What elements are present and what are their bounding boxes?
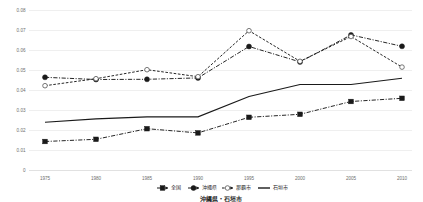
legend-item[interactable]: 那覇市 (222, 184, 251, 191)
series-point (196, 131, 201, 136)
series-line (45, 98, 402, 141)
x-axis-tick-label: 1980 (91, 176, 102, 181)
series-point (400, 65, 405, 70)
y-axis-tick-label: 0.04 (17, 88, 26, 93)
series-point (400, 44, 405, 49)
series-point (247, 115, 252, 120)
legend-item-label: 石垣市 (273, 184, 288, 191)
x-axis-tick-label: 2000 (295, 176, 306, 181)
series-point (247, 44, 252, 49)
series-point (145, 77, 150, 82)
series-point (43, 83, 48, 88)
y-axis-tick-label: 0.06 (17, 48, 26, 53)
y-axis-tick-label: 0.02 (17, 128, 26, 133)
x-axis-tick-label: 2010 (397, 176, 408, 181)
series-line (45, 35, 402, 80)
series-line (45, 31, 402, 86)
legend-marker-swatch (225, 186, 230, 191)
y-axis-tick-label: 0.07 (17, 28, 26, 33)
y-axis-tick-label: 0.01 (17, 148, 26, 153)
data-series (43, 32, 405, 82)
line-chart: 0.080.070.060.050.040.030.020.010 197519… (0, 0, 423, 202)
series-layer (43, 28, 405, 143)
series-point (94, 137, 99, 142)
x-axis-tick-label: 2005 (346, 176, 357, 181)
series-point (196, 74, 201, 79)
series-point (298, 112, 303, 117)
x-axis-tick-label: 1985 (142, 176, 153, 181)
chart-canvas: 0.080.070.060.050.040.030.020.010 197519… (0, 0, 423, 202)
data-series (43, 28, 405, 88)
legend-item-label: 沖縄県 (202, 184, 217, 191)
series-point (43, 75, 48, 80)
series-point (43, 139, 48, 144)
series-point (145, 67, 150, 72)
figure-caption: 沖縄県・石垣市 (200, 195, 242, 202)
x-axis-tick-label: 1975 (40, 176, 51, 181)
y-axis-tick-label: 0.08 (17, 8, 26, 13)
legend-item[interactable]: 沖縄県 (188, 184, 217, 191)
x-axis-tick-label: 1990 (193, 176, 204, 181)
y-axis-tick-labels: 0.080.070.060.050.040.030.020.010 (17, 8, 26, 173)
series-point (349, 34, 354, 39)
x-axis-tick-label: 1995 (244, 176, 255, 181)
y-axis-tick-label: 0.03 (17, 108, 26, 113)
series-point (400, 96, 405, 101)
legend-arrow-icon (196, 186, 199, 189)
legend-item-label: 全国 (171, 184, 181, 191)
x-axis-tick-labels: 19751980198519901995200020052010 (40, 176, 408, 181)
legend-marker-swatch (191, 186, 196, 191)
chart-legend: 全国沖縄県那覇市石垣市 (157, 184, 288, 191)
y-axis-tick-label: 0.05 (17, 68, 26, 73)
series-point (145, 126, 150, 131)
series-point (94, 76, 99, 81)
gridlines (29, 11, 412, 171)
caption-text: 沖縄県・石垣市 (200, 195, 242, 202)
legend-item-label: 那覇市 (236, 184, 251, 191)
legend-item[interactable]: 石垣市 (258, 184, 288, 191)
y-axis-tick-label: 0 (23, 168, 26, 173)
legend-arrow-icon (230, 186, 233, 189)
legend-marker-swatch (160, 186, 165, 191)
series-point (349, 99, 354, 104)
series-point (298, 59, 303, 64)
legend-arrow-icon (165, 186, 168, 189)
legend-item[interactable]: 全国 (157, 184, 181, 191)
data-series (43, 96, 405, 144)
series-point (247, 28, 252, 33)
